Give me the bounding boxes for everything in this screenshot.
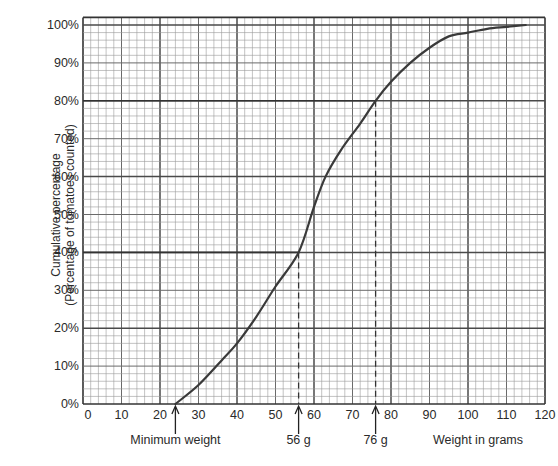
y-axis-label-line2: (Percentage of tomatoes counted) [63, 124, 77, 305]
y-tick-label: 90% [54, 56, 79, 70]
y-tick-label: 20% [54, 321, 79, 335]
x-tick-label: 50 [269, 408, 283, 422]
x-tick-label: 80 [384, 408, 398, 422]
annotation-label: Minimum weight [130, 433, 221, 447]
x-tick-label: 10 [115, 408, 129, 422]
y-tick-label: 80% [54, 94, 79, 108]
y-axis-label-line1: Cumulative percentage [49, 153, 63, 277]
y-tick-label: 100% [47, 18, 79, 32]
x-tick-label: 90 [423, 408, 437, 422]
x-tick-label: 60 [307, 408, 321, 422]
annotation-label: 56 g [286, 433, 310, 447]
x-tick-label: 20 [153, 408, 167, 422]
x-axis-label: Weight in grams [433, 433, 523, 447]
x-tick-label: 40 [230, 408, 244, 422]
y-tick-label: 10% [54, 359, 79, 373]
y-tick-label: 0% [61, 397, 79, 411]
cumulative-frequency-chart: 0%10%20%30%40%50%60%70%80%90%100% 010203… [0, 0, 558, 466]
grid [83, 17, 545, 404]
x-tick-label: 120 [535, 408, 556, 422]
x-tick-label: 110 [497, 408, 517, 422]
x-axis-ticks: 0102030405060708090100110120 [85, 408, 556, 422]
x-tick-label: 30 [192, 408, 206, 422]
x-tick-label: 0 [85, 408, 92, 422]
x-tick-label: 70 [346, 408, 360, 422]
x-tick-label: 100 [458, 408, 479, 422]
annotation-label: 76 g [363, 433, 387, 447]
